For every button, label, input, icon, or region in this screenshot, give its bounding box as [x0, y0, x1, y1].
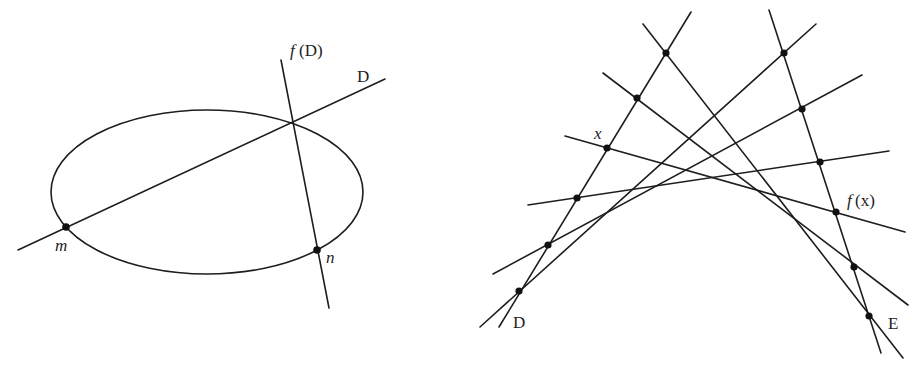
point-on-d-1 — [662, 49, 669, 56]
point-on-d-2 — [633, 94, 640, 101]
label-point-n: n — [326, 248, 335, 267]
point-on-d-5 — [544, 241, 551, 248]
point-f-of-x — [832, 208, 839, 215]
point-on-e-2 — [798, 105, 805, 112]
label-line-f-of-d-arg: (D) — [299, 41, 323, 60]
point-x — [603, 144, 610, 151]
line-e — [769, 10, 881, 353]
label-point-m: m — [55, 236, 67, 255]
point-on-d-6 — [515, 287, 522, 294]
point-n — [313, 246, 321, 254]
point-on-d-4 — [573, 194, 580, 201]
line-f-of-d — [281, 60, 329, 308]
point-m — [62, 223, 70, 231]
label-line-e: E — [888, 314, 898, 333]
point-on-e-5 — [850, 263, 857, 270]
diagram-canvas: m n D f (D) x f (x) D E — [0, 0, 921, 374]
figure-right-pascal-lines: x f (x) D E — [480, 10, 908, 358]
line-d — [18, 79, 385, 250]
label-f-of-x-arg: (x) — [855, 191, 875, 210]
line-d-right — [499, 12, 691, 327]
label-line-d-right: D — [513, 313, 525, 332]
label-line-f-of-d-f: f — [290, 41, 297, 60]
point-on-e-6 — [865, 312, 872, 319]
label-f-of-x-f: f — [847, 191, 854, 210]
point-on-e-1 — [780, 49, 787, 56]
figure-left-ellipse-construction: m n D f (D) — [18, 41, 385, 308]
point-on-e-3 — [816, 158, 823, 165]
connecting-line-3 — [565, 136, 905, 232]
connecting-line-4 — [528, 151, 889, 205]
label-point-x: x — [593, 124, 602, 143]
label-line-d: D — [357, 67, 369, 86]
connecting-line-6 — [480, 24, 816, 327]
